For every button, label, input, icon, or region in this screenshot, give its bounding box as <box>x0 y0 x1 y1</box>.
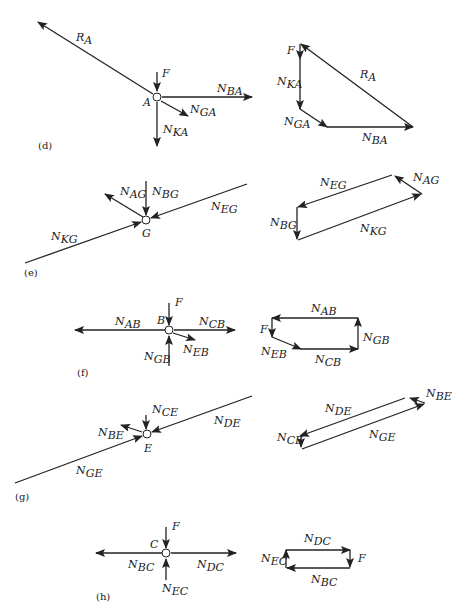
label-NEG: NEG <box>210 200 238 216</box>
poly-label-NBA: NBA <box>361 131 388 147</box>
poly-label-NGB: NGB <box>362 331 390 347</box>
force-RA-arrow <box>38 22 153 94</box>
panel-caption-g: (g) <box>15 491 29 502</box>
label-NBA: NBA <box>216 82 243 98</box>
label-NEC: NEC <box>161 582 189 598</box>
label-NGE: NGE <box>75 464 102 480</box>
label-NBE: NBE <box>97 426 124 442</box>
label-NKG: NKG <box>50 230 78 246</box>
label-NBC: NBC <box>127 558 155 574</box>
poly-label-F-B: F <box>259 323 268 336</box>
poly-label-NBG: NBG <box>269 216 297 232</box>
poly-label-NBE: NBE <box>425 387 452 403</box>
panel-g: E NCE NBE NDE NGE (g) NDE NBE NCE NGE <box>15 387 452 502</box>
free-body-diagram-joint-A: A RA F NBA NGA NKA <box>38 22 252 146</box>
label-NBG: NBG <box>151 185 179 201</box>
poly-label-NCE: NCE <box>276 431 303 447</box>
free-body-diagram-joint-B: B F NAB NCB NEB NGB <box>75 296 235 366</box>
poly-label-NBC: NBC <box>310 573 338 589</box>
poly-label-NKA: NKA <box>276 75 302 91</box>
poly-label-NKG: NKG <box>359 222 387 238</box>
node-label-E: E <box>143 442 152 455</box>
poly-NBE-arrow <box>410 398 425 403</box>
joint-G-node <box>142 216 150 224</box>
poly-label-NEC: NEC <box>260 552 288 568</box>
poly-label-F: F <box>286 44 295 57</box>
force-polygon-f: NAB F NEB NCB NGB <box>259 302 390 369</box>
free-body-diagram-joint-E: E NCE NBE NDE NGE <box>15 396 252 483</box>
label-F-C: F <box>171 520 180 533</box>
label-NGA: NGA <box>189 103 216 119</box>
poly-label-F-C: F <box>357 552 366 565</box>
label-NCE: NCE <box>151 403 178 419</box>
poly-RA-arrow <box>301 44 413 127</box>
force-NEB-arrow <box>173 333 195 340</box>
joint-A-node <box>153 93 161 101</box>
force-NGA-arrow <box>161 101 188 116</box>
force-polygon-e-node: NDE NBE NCE NGE <box>276 387 452 449</box>
panel-caption-f: (f) <box>77 367 89 378</box>
label-NAB: NAB <box>114 315 141 331</box>
panel-d: A RA F NBA NGA NKA (d) F NKA NGA NBA RA <box>38 22 413 151</box>
force-NBE-arrow <box>121 425 142 432</box>
force-NKG-arrow <box>25 222 141 263</box>
joint-C-node <box>162 549 170 557</box>
force-polygon-e: NEG NAG NBG NKG <box>269 171 440 240</box>
poly-label-RA: RA <box>359 68 376 84</box>
poly-label-NAG: NAG <box>412 171 440 187</box>
free-body-diagram-joint-C: C F NBC NDC NEC <box>96 520 236 598</box>
panel-caption-d: (d) <box>38 140 52 151</box>
label-NEB: NEB <box>182 343 209 359</box>
poly-label-NGA: NGA <box>283 115 310 131</box>
poly-label-NEB: NEB <box>260 345 287 361</box>
label-NDC: NDC <box>196 558 224 574</box>
label-F-B: F <box>174 296 183 309</box>
panel-caption-e: (e) <box>24 267 38 278</box>
poly-label-NDC: NDC <box>303 532 331 548</box>
force-polygon-h: NDC F NEC NBC <box>260 532 366 589</box>
poly-NGE-arrow <box>302 404 424 449</box>
panel-caption-h: (h) <box>96 591 110 602</box>
joint-E-node <box>143 430 151 438</box>
label-NCB: NCB <box>198 315 225 331</box>
node-label-B: B <box>156 314 165 327</box>
node-label-C: C <box>150 538 159 551</box>
node-label-A: A <box>142 96 151 109</box>
truss-joint-force-diagrams: A RA F NBA NGA NKA (d) F NKA NGA NBA RA <box>0 0 462 613</box>
panel-e: G NAG NBG NEG NKG (e) NEG NAG NBG NKG <box>24 171 440 278</box>
label-NAG: NAG <box>119 185 147 201</box>
joint-B-node <box>165 326 173 334</box>
force-polygon-d: F NKA NGA NBA RA <box>276 44 413 147</box>
panel-f: B F NAB NCB NEB NGB (f) NAB F NEB NCB NG… <box>75 296 390 378</box>
label-NGB: NGB <box>143 350 171 366</box>
poly-label-NDE: NDE <box>324 402 351 418</box>
poly-label-NGE: NGE <box>368 428 395 444</box>
poly-label-NCB: NCB <box>314 353 341 369</box>
label-RA: RA <box>75 31 92 47</box>
panel-h: C F NBC NDC NEC (h) NDC F NEC NBC <box>96 520 366 602</box>
poly-label-NAB: NAB <box>310 302 337 318</box>
node-label-G: G <box>142 227 151 240</box>
label-NDE: NDE <box>213 414 240 430</box>
poly-label-NEG: NEG <box>319 176 347 192</box>
label-F: F <box>161 67 170 80</box>
label-NKA: NKA <box>162 123 188 139</box>
free-body-diagram-joint-G: G NAG NBG NEG NKG <box>25 181 247 263</box>
